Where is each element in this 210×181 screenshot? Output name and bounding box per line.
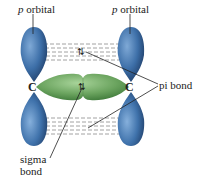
left-p-orbital-label: p orbital (18, 3, 55, 15)
sigma-electron-pair: ⇅ (78, 81, 86, 93)
carbon-atom-right: C (125, 81, 134, 93)
pi-electron-pair: ⇅ (77, 46, 85, 58)
right-p-orbital-upper-lobe (118, 27, 144, 82)
sigma-bond-label-line1: sigma (20, 153, 46, 165)
carbon-atom-left: C (28, 81, 37, 93)
pi-bond-label: pi bond (159, 79, 192, 91)
lower-pi-dashes (45, 118, 119, 134)
right-p-orbital-label: p orbital (112, 3, 149, 15)
left-p-orbital-upper-lobe (21, 27, 47, 82)
right-p-orbital-lower-lobe (118, 92, 144, 146)
left-p-orbital-lower-lobe (21, 92, 47, 146)
sigma-bond-label-line2: bond (20, 165, 42, 177)
pi-bond-diagram: p orbital p orbital C C ⇅ ⇅ pi bond sigm… (0, 0, 210, 181)
